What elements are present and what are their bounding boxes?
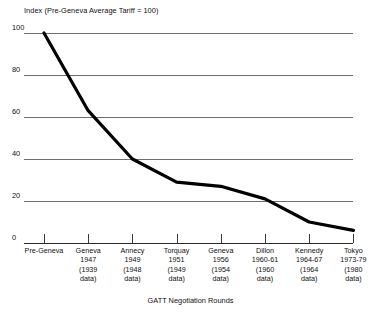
category-label-line: 1973-79: [326, 255, 380, 264]
y-tick-label-20: 20: [12, 191, 20, 201]
category-label-7: Tokyo1973-79(1980data): [326, 246, 380, 284]
gridline-40: [24, 159, 353, 160]
tariff-index-chart: Index (Pre-Geneva Average Tariff = 100) …: [0, 0, 381, 314]
x-axis-line: [24, 243, 353, 244]
gridline-80: [24, 75, 353, 76]
plot-area: [24, 33, 353, 243]
x-tick-4: [221, 234, 222, 243]
gridline-100: [24, 33, 353, 34]
x-tick-2: [132, 234, 133, 243]
category-label-line: data): [326, 274, 380, 283]
x-tick-7: [353, 234, 354, 243]
y-tick-label-80: 80: [12, 65, 20, 75]
x-tick-0: [44, 234, 45, 243]
category-label-line: Tokyo: [326, 246, 380, 255]
x-tick-6: [309, 234, 310, 243]
gridline-60: [24, 117, 353, 118]
y-tick-label-100: 100: [12, 23, 24, 33]
x-tick-1: [88, 234, 89, 243]
x-tick-5: [265, 234, 266, 243]
gridline-20: [24, 201, 353, 202]
category-label-line: (1980: [326, 265, 380, 274]
x-axis-caption: GATT Negotiation Rounds: [0, 296, 381, 305]
x-tick-3: [177, 234, 178, 243]
chart-title: Index (Pre-Geneva Average Tariff = 100): [24, 6, 158, 15]
y-tick-label-0: 0: [12, 233, 16, 243]
y-tick-label-60: 60: [12, 107, 20, 117]
y-tick-label-40: 40: [12, 149, 20, 159]
